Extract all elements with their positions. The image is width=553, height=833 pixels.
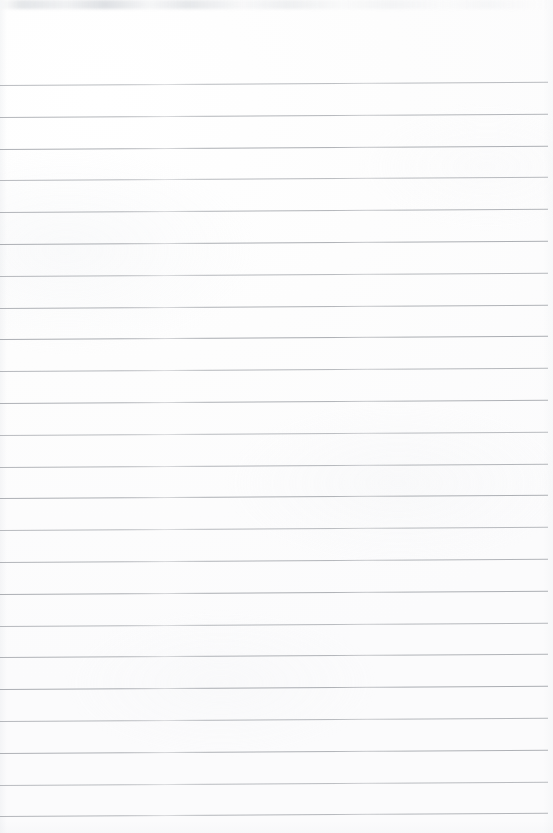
ruled-line [0,781,548,785]
ruled-line [0,400,548,404]
ruled-line [0,304,548,308]
ruled-lines-group [0,0,553,833]
ruled-line [0,654,548,658]
ruled-line [0,145,548,149]
ruled-line [0,273,548,277]
ruled-line [0,686,548,690]
ruled-line [0,495,548,499]
ruled-line [0,114,548,118]
ruled-line [0,241,548,245]
ruled-line [0,432,548,436]
ruled-line [0,527,548,531]
ruled-line [0,82,548,86]
ruled-line [0,177,548,181]
ruled-line [0,591,548,595]
ruled-line [0,463,548,467]
ruled-line [0,750,548,754]
scanned-page [0,0,553,833]
ruled-line [0,813,548,817]
ruled-line [0,209,548,213]
ruled-line [0,559,548,563]
ruled-line [0,718,548,722]
ruled-line [0,622,548,626]
ruled-line [0,336,548,340]
ruled-line [0,368,548,372]
